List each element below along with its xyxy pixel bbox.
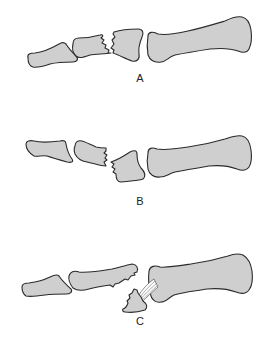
- panel-b: [26, 136, 251, 182]
- proximal-phalanx-a: [147, 17, 251, 62]
- panel-c: [22, 254, 252, 312]
- distal-phalanx-c: [22, 275, 72, 297]
- proximal-phalanx-b: [147, 136, 251, 177]
- middle-phalanx-proximal-fragment-b: [74, 141, 107, 166]
- proximal-phalanx-c: [149, 254, 253, 302]
- distal-phalanx-a: [28, 43, 78, 68]
- panel-a: [28, 17, 252, 68]
- distal-phalanx-b: [26, 141, 73, 163]
- middle-phalanx-distal-fragment-a: [111, 29, 143, 61]
- finger-fracture-diagram: [0, 0, 270, 341]
- panel-label-c: C: [136, 315, 144, 327]
- middle-phalanx-c: [69, 264, 138, 290]
- panel-label-a: A: [136, 72, 143, 84]
- middle-phalanx-proximal-fragment-a: [73, 35, 111, 58]
- panel-label-b: B: [136, 195, 143, 207]
- middle-phalanx-distal-fragment-b: [111, 151, 145, 182]
